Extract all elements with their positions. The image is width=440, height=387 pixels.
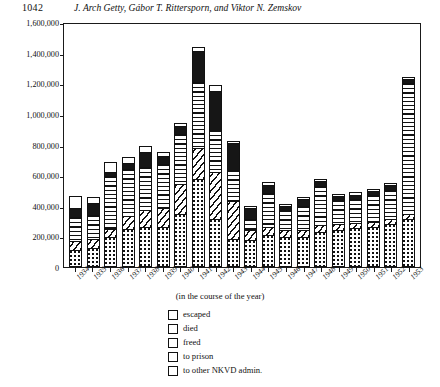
bar-segment [210, 131, 221, 173]
bar-segment [403, 220, 414, 266]
bar-segment [70, 209, 81, 218]
x-axis-tick-mark [216, 268, 217, 272]
stacked-bar[interactable] [139, 146, 152, 267]
bar-slot [207, 24, 225, 267]
stacked-bar[interactable] [69, 196, 82, 267]
bar-segment [228, 144, 239, 170]
bar-segment [403, 84, 414, 215]
legend-swatch-solid [168, 324, 178, 334]
legend-item[interactable]: to other NKVD admin. [168, 364, 262, 377]
bar-segment [350, 229, 361, 266]
bar-slot [225, 24, 243, 267]
x-axis-tick-mark [339, 268, 340, 272]
legend-swatch-white [168, 310, 178, 320]
bar-segment [193, 149, 204, 181]
bar-segment [333, 201, 344, 225]
bar-segment [263, 186, 274, 194]
bar-group [64, 24, 420, 267]
legend-item[interactable]: freed [168, 336, 262, 349]
bar-slot [382, 24, 400, 267]
bar-slot [137, 24, 155, 267]
bar-segment [368, 196, 379, 223]
legend-label: to prison [183, 352, 213, 361]
bar-segment [263, 194, 274, 229]
stacked-bar[interactable] [332, 194, 345, 267]
legend-swatch-diag [168, 352, 178, 362]
bar-segment [193, 52, 204, 84]
bar-slot [295, 24, 313, 267]
legend-item[interactable]: to prison [168, 350, 262, 363]
stacked-bar[interactable] [244, 206, 257, 267]
chart-legend: escapeddiedfreedto prisonto other NKVD a… [168, 308, 262, 377]
bar-slot [85, 24, 103, 267]
bar-segment [228, 171, 239, 203]
x-axis-tick-mark [233, 268, 234, 272]
stacked-bar[interactable] [104, 162, 117, 267]
bar-slot [330, 24, 348, 267]
x-axis-tick-mark [304, 268, 305, 272]
bar-segment [158, 157, 169, 166]
y-axis-tick-label: 1,200,000 [26, 81, 59, 89]
bar-segment [105, 238, 116, 266]
stacked-bar[interactable] [279, 204, 292, 267]
bar-segment [333, 231, 344, 266]
bar-slot [365, 24, 383, 267]
bar-segment [175, 127, 186, 135]
bar-segment [158, 209, 169, 228]
bar-segment [140, 211, 151, 229]
bar-segment [175, 215, 186, 266]
bar-segment [88, 204, 99, 216]
stacked-bar[interactable] [262, 182, 275, 267]
stacked-bar[interactable] [349, 192, 362, 267]
legend-label: to other NKVD admin. [183, 366, 262, 375]
bar-segment [210, 92, 221, 131]
stacked-bar[interactable] [402, 77, 415, 267]
bar-slot [120, 24, 138, 267]
stacked-bar[interactable] [87, 197, 100, 267]
chart-plot-area: 0200,000400,000600,000800,0001,000,0001,… [63, 23, 421, 268]
x-axis-tick-label: 1953 [409, 265, 425, 281]
bar-segment [210, 173, 221, 220]
bar-segment [245, 220, 256, 232]
bar-segment [368, 228, 379, 266]
bar-segment [350, 200, 361, 224]
stacked-bar[interactable] [174, 123, 187, 267]
stacked-bar[interactable] [384, 183, 397, 267]
stacked-bar[interactable] [209, 85, 222, 267]
bar-segment [140, 168, 151, 211]
bar-segment [70, 218, 81, 242]
stacked-bar[interactable] [314, 179, 327, 267]
bar-slot [155, 24, 173, 267]
bar-segment [210, 220, 221, 266]
bar-slot [172, 24, 190, 267]
y-axis-tick-label: 1,000,000 [26, 112, 59, 120]
bar-segment [193, 180, 204, 266]
legend-item[interactable]: escaped [168, 308, 262, 321]
stacked-bar[interactable] [367, 189, 380, 267]
legend-label: escaped [183, 310, 210, 319]
stacked-bar[interactable] [192, 47, 205, 267]
stacked-bar[interactable] [297, 197, 310, 267]
bar-segment [70, 251, 81, 266]
bar-segment [88, 249, 99, 266]
stacked-bar[interactable] [227, 141, 240, 267]
bar-slot [190, 24, 208, 267]
bar-segment [385, 225, 396, 266]
bar-segment [105, 177, 116, 229]
x-axis-tick-mark [251, 268, 252, 272]
bar-segment [385, 191, 396, 220]
bar-segment [298, 238, 309, 266]
bar-segment [315, 226, 326, 233]
legend-label: freed [183, 338, 201, 347]
legend-item[interactable]: died [168, 322, 262, 335]
legend-label: died [183, 324, 198, 333]
bar-slot [102, 24, 120, 267]
bar-segment [193, 83, 204, 148]
bar-segment [228, 240, 239, 266]
stacked-bar[interactable] [157, 152, 170, 267]
bar-segment [123, 170, 134, 217]
bar-segment [88, 216, 99, 240]
x-axis-tick-mark [321, 268, 322, 272]
bar-segment [245, 241, 256, 266]
stacked-bar[interactable] [122, 157, 135, 267]
